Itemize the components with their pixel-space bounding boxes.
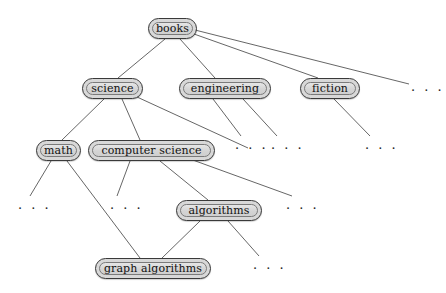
edge-engineering-to-engineering-child-2 [243,99,277,136]
edge-engineering-to-engineering-child-1 [213,99,241,136]
edge-books-to-books-more [195,30,409,84]
edge-computer-science-to-computer-science-child [117,161,130,196]
node-label-math: math [40,144,77,157]
node-math[interactable]: math [36,140,81,161]
node-graph-algorithms[interactable]: graph algorithms [95,258,211,279]
ellipsis-computer-science-child: · · · [110,202,143,215]
node-label-fiction: fiction [304,82,356,95]
taxonomy-tree-diagram: booksscienceengineeringfictionmathcomput… [0,0,446,293]
edge-books-to-engineering [180,39,215,78]
node-label-algorithms: algorithms [180,204,258,217]
node-label-books: books [152,22,193,35]
ellipsis-books-more: · · · [411,84,444,97]
edge-algorithms-to-algorithms-child [228,221,259,256]
node-engineering[interactable]: engineering [179,78,271,99]
edge-science-to-computer-science [122,99,140,140]
ellipsis-engineering-child-1: · · · [235,142,268,155]
edge-science-to-math [62,99,104,140]
node-label-computer-science: computer science [92,144,211,157]
node-label-engineering: engineering [183,82,267,95]
ellipsis-algorithms-child: · · · [253,262,286,275]
ellipsis-fiction-child: · · · [365,142,398,155]
edge-algorithms-to-graph-algorithms [162,221,200,258]
node-computer-science[interactable]: computer science [88,140,215,161]
edge-computer-science-to-algorithms [160,161,208,200]
node-books[interactable]: books [148,18,197,39]
ellipsis-science-child-more: · · · [286,202,319,215]
node-algorithms[interactable]: algorithms [176,200,262,221]
node-label-graph-algorithms: graph algorithms [99,262,207,275]
edge-computer-science-to-science-child-more [190,159,292,196]
edge-math-to-math-child [30,161,51,196]
node-fiction[interactable]: fiction [300,78,360,99]
edge-books-to-science [118,39,165,78]
edge-fiction-to-fiction-child [334,99,370,136]
ellipsis-engineering-child-2: · · · [271,142,304,155]
node-label-science: science [86,82,139,95]
node-science[interactable]: science [82,78,143,99]
ellipsis-math-child: · · · [18,202,51,215]
